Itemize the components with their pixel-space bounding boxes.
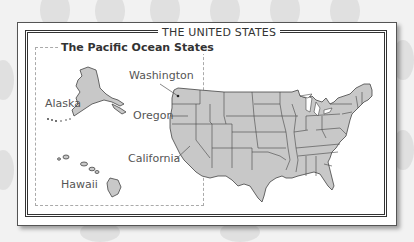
label-alaska: Alaska bbox=[45, 97, 81, 110]
label-california: California bbox=[128, 152, 180, 165]
label-washington: Washington bbox=[129, 69, 194, 82]
inset-title: The Pacific Ocean States bbox=[58, 41, 217, 54]
label-oregon: Oregon bbox=[133, 109, 173, 122]
label-hawaii: Hawaii bbox=[61, 178, 98, 191]
map-title: THE UNITED STATES bbox=[158, 26, 280, 40]
hawaii-island bbox=[58, 158, 61, 160]
